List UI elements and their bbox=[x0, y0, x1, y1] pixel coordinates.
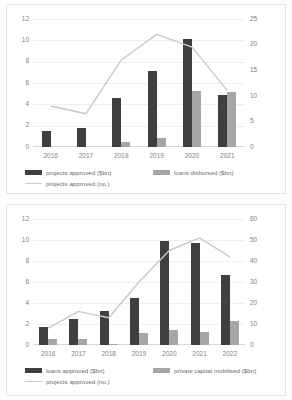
legend-item-line-1: projects approved (no.) bbox=[25, 180, 153, 187]
chart-card-loans-approved: 024681012 0102030405060 2016201720182019… bbox=[6, 204, 286, 396]
x-axis-label: 2016 bbox=[33, 151, 68, 160]
bar-secondary bbox=[121, 142, 130, 147]
bar-secondary bbox=[48, 339, 57, 345]
plot-area-1: 024681012 0510152025 bbox=[33, 19, 245, 147]
y-axis-right-tick-label: 0 bbox=[250, 144, 254, 151]
bar-category bbox=[63, 219, 93, 345]
y-axis-right-tick-label: 5 bbox=[250, 118, 254, 125]
y-axis-right-tick-label: 15 bbox=[250, 67, 257, 74]
x-axis-label: 2017 bbox=[63, 349, 93, 358]
y-axis-right-tick-label: 30 bbox=[250, 279, 257, 286]
y-axis-left-tick-label: 6 bbox=[25, 80, 29, 87]
y-axis-left-tick-label: 8 bbox=[25, 58, 29, 65]
bar-primary bbox=[77, 128, 86, 147]
legend-1: projects approved ($bn) loans disbursed … bbox=[25, 167, 277, 189]
legend-label-line-2: projects approved (no.) bbox=[46, 378, 110, 385]
bar-category bbox=[33, 19, 68, 147]
bar-category bbox=[184, 219, 214, 345]
bar-secondary bbox=[109, 344, 118, 345]
legend-label-secondary-2: private capital mobilised ($bn) bbox=[174, 367, 256, 374]
bar-secondary bbox=[230, 321, 239, 345]
legend-swatch-bar-icon bbox=[25, 170, 42, 175]
y-axis-right-tick-label: 20 bbox=[250, 41, 257, 48]
x-axis-label: 2017 bbox=[68, 151, 103, 160]
y-axis-left-tick-label: 4 bbox=[25, 300, 29, 307]
legend-row-1a: projects approved ($bn) loans disbursed … bbox=[25, 167, 277, 178]
legend-row-2b: projects approved (no.) bbox=[25, 376, 277, 387]
bar-category bbox=[33, 219, 63, 345]
x-axis-label: 2020 bbox=[174, 151, 209, 160]
y-axis-right-tick-label: 0 bbox=[250, 342, 254, 349]
bar-secondary bbox=[227, 92, 236, 147]
bar-secondary bbox=[139, 333, 148, 345]
bar-group-1 bbox=[33, 19, 245, 147]
bar-primary bbox=[130, 298, 139, 345]
bar-primary bbox=[221, 275, 230, 345]
y-axis-left-tick-label: 12 bbox=[22, 216, 29, 223]
legend-row-2a: loans approved ($bn) private capital mob… bbox=[25, 365, 277, 376]
bar-primary bbox=[112, 98, 121, 147]
bar-category bbox=[215, 219, 245, 345]
page-root: 024681012 0510152025 2016201720182019202… bbox=[0, 0, 292, 400]
bar-primary bbox=[39, 327, 48, 345]
y-axis-left-tick-label: 12 bbox=[22, 16, 29, 23]
y-axis-right-tick-label: 40 bbox=[250, 258, 257, 265]
legend-swatch-line-icon bbox=[25, 381, 42, 382]
bar-category bbox=[94, 219, 124, 345]
legend-item-secondary-2: private capital mobilised ($bn) bbox=[153, 367, 256, 374]
legend-swatch-line-icon bbox=[25, 183, 42, 184]
x-axis-label: 2021 bbox=[184, 349, 214, 358]
bar-primary bbox=[100, 311, 109, 345]
x-axis-label: 2021 bbox=[210, 151, 245, 160]
bar-secondary bbox=[200, 332, 209, 345]
x-axis-label: 2019 bbox=[124, 349, 154, 358]
bar-secondary bbox=[192, 91, 201, 147]
bar-category bbox=[139, 19, 174, 147]
y-axis-left-tick-label: 8 bbox=[25, 258, 29, 265]
y-axis-right-tick-label: 25 bbox=[250, 16, 257, 23]
bar-category bbox=[124, 219, 154, 345]
y-axis-left-tick-label: 6 bbox=[25, 279, 29, 286]
x-axis-label: 2018 bbox=[94, 349, 124, 358]
bar-primary bbox=[42, 131, 51, 147]
y-axis-left-tick-label: 10 bbox=[22, 37, 29, 44]
bar-group-2 bbox=[33, 219, 245, 345]
legend-label-primary-1: projects approved ($bn) bbox=[46, 169, 111, 176]
y-axis-right-tick-label: 10 bbox=[250, 93, 257, 100]
x-axis-label: 2022 bbox=[215, 349, 245, 358]
plot-area-2: 024681012 0102030405060 bbox=[33, 219, 245, 345]
bar-primary bbox=[183, 39, 192, 147]
legend-2: loans approved ($bn) private capital mob… bbox=[25, 365, 277, 387]
bar-category bbox=[210, 19, 245, 147]
bar-primary bbox=[69, 319, 78, 345]
y-axis-left-tick-label: 10 bbox=[22, 237, 29, 244]
chart-card-projects-approved: 024681012 0510152025 2016201720182019202… bbox=[6, 4, 286, 194]
legend-item-secondary-1: loans disbursed ($bn) bbox=[153, 169, 234, 176]
x-axis-label: 2019 bbox=[139, 151, 174, 160]
legend-label-secondary-1: loans disbursed ($bn) bbox=[174, 169, 234, 176]
x-axis-label: 2018 bbox=[104, 151, 139, 160]
y-axis-right-tick-label: 20 bbox=[250, 300, 257, 307]
bar-category bbox=[174, 19, 209, 147]
y-axis-right-tick-label: 50 bbox=[250, 237, 257, 244]
legend-label-line-1: projects approved (no.) bbox=[46, 180, 110, 187]
legend-item-line-2: projects approved (no.) bbox=[25, 378, 153, 385]
y-axis-left-tick-label: 4 bbox=[25, 101, 29, 108]
y-axis-right-tick-label: 60 bbox=[250, 216, 257, 223]
legend-swatch-bar-icon bbox=[25, 368, 42, 373]
legend-item-primary-1: projects approved ($bn) bbox=[25, 169, 153, 176]
bar-primary bbox=[218, 95, 227, 147]
bar-secondary bbox=[169, 330, 178, 345]
bar-category bbox=[154, 219, 184, 345]
bar-primary bbox=[191, 243, 200, 345]
y-axis-left-tick-label: 2 bbox=[25, 321, 29, 328]
bar-primary bbox=[160, 241, 169, 345]
x-axis-label: 2020 bbox=[154, 349, 184, 358]
x-axis-label: 2016 bbox=[33, 349, 63, 358]
y-axis-left-tick-label: 2 bbox=[25, 122, 29, 129]
y-axis-right-tick-label: 10 bbox=[250, 321, 257, 328]
legend-item-primary-2: loans approved ($bn) bbox=[25, 367, 153, 374]
bar-secondary bbox=[157, 138, 166, 147]
legend-swatch-bar-icon bbox=[153, 368, 170, 373]
legend-row-1b: projects approved (no.) bbox=[25, 178, 277, 189]
